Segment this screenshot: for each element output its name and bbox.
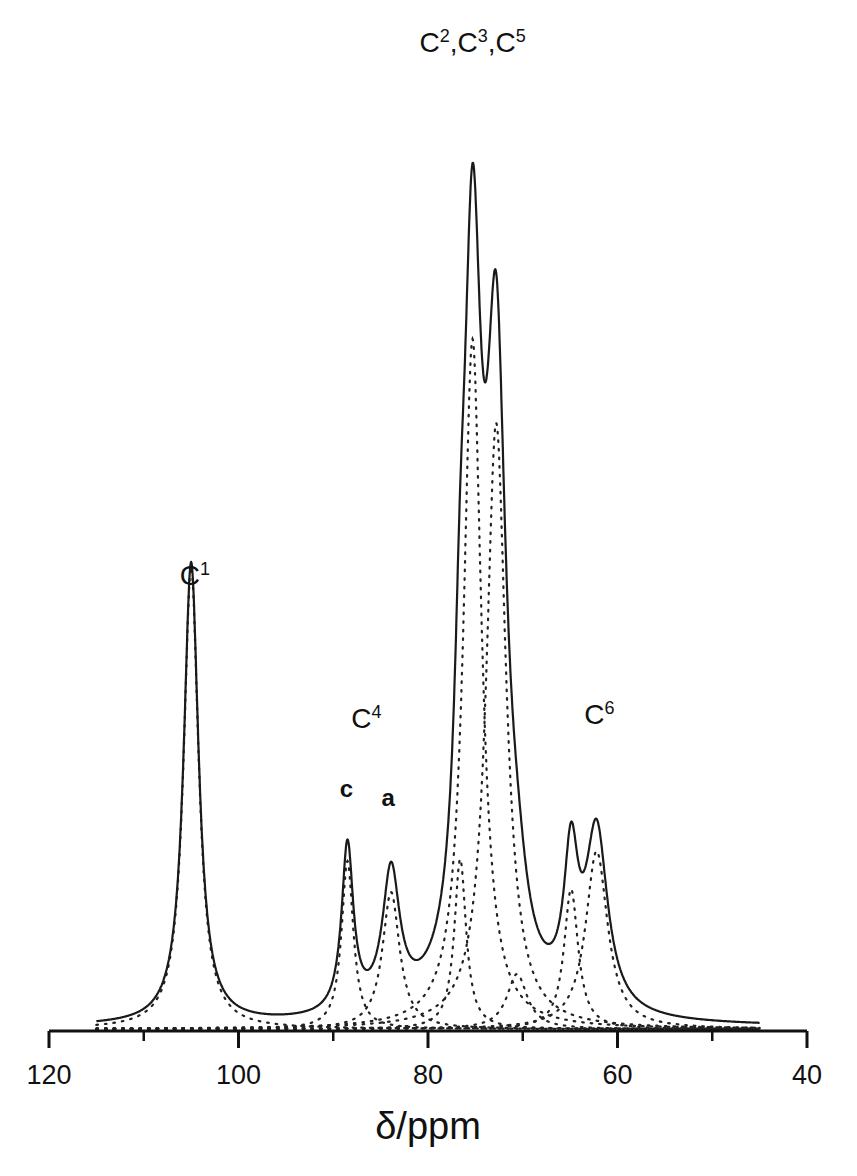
nmr-spectrum-chart: 120100806040 C1C4caC2,C3,C5C6 δ/ppm <box>0 0 857 1176</box>
peak-label-c2-c3-c5: C2,C3,C5 <box>419 26 525 58</box>
peak-label-c6: C6 <box>584 698 614 730</box>
peak-label-c4: C4 <box>351 702 381 734</box>
component-curve-8 <box>96 851 759 1029</box>
x-tick-label: 100 <box>216 1060 261 1090</box>
component-curve-5 <box>96 423 759 1029</box>
component-curve-7 <box>96 889 759 1029</box>
x-axis: 120100806040 <box>26 1031 822 1090</box>
component-curve-2 <box>96 892 759 1029</box>
x-tick-label: 120 <box>26 1060 71 1090</box>
peak-label-c: c <box>340 775 353 802</box>
peak-label-a: a <box>382 784 396 811</box>
peak-annotations: C1C4caC2,C3,C5C6 <box>180 26 615 811</box>
x-tick-label: 80 <box>413 1060 443 1090</box>
peak-label-c1: C1 <box>180 559 210 591</box>
x-tick-label: 60 <box>602 1060 632 1090</box>
x-axis-title: δ/ppm <box>375 1105 481 1147</box>
x-tick-label: 40 <box>792 1060 822 1090</box>
component-curve-3 <box>96 859 759 1029</box>
experimental-spectrum-line <box>96 163 759 1023</box>
